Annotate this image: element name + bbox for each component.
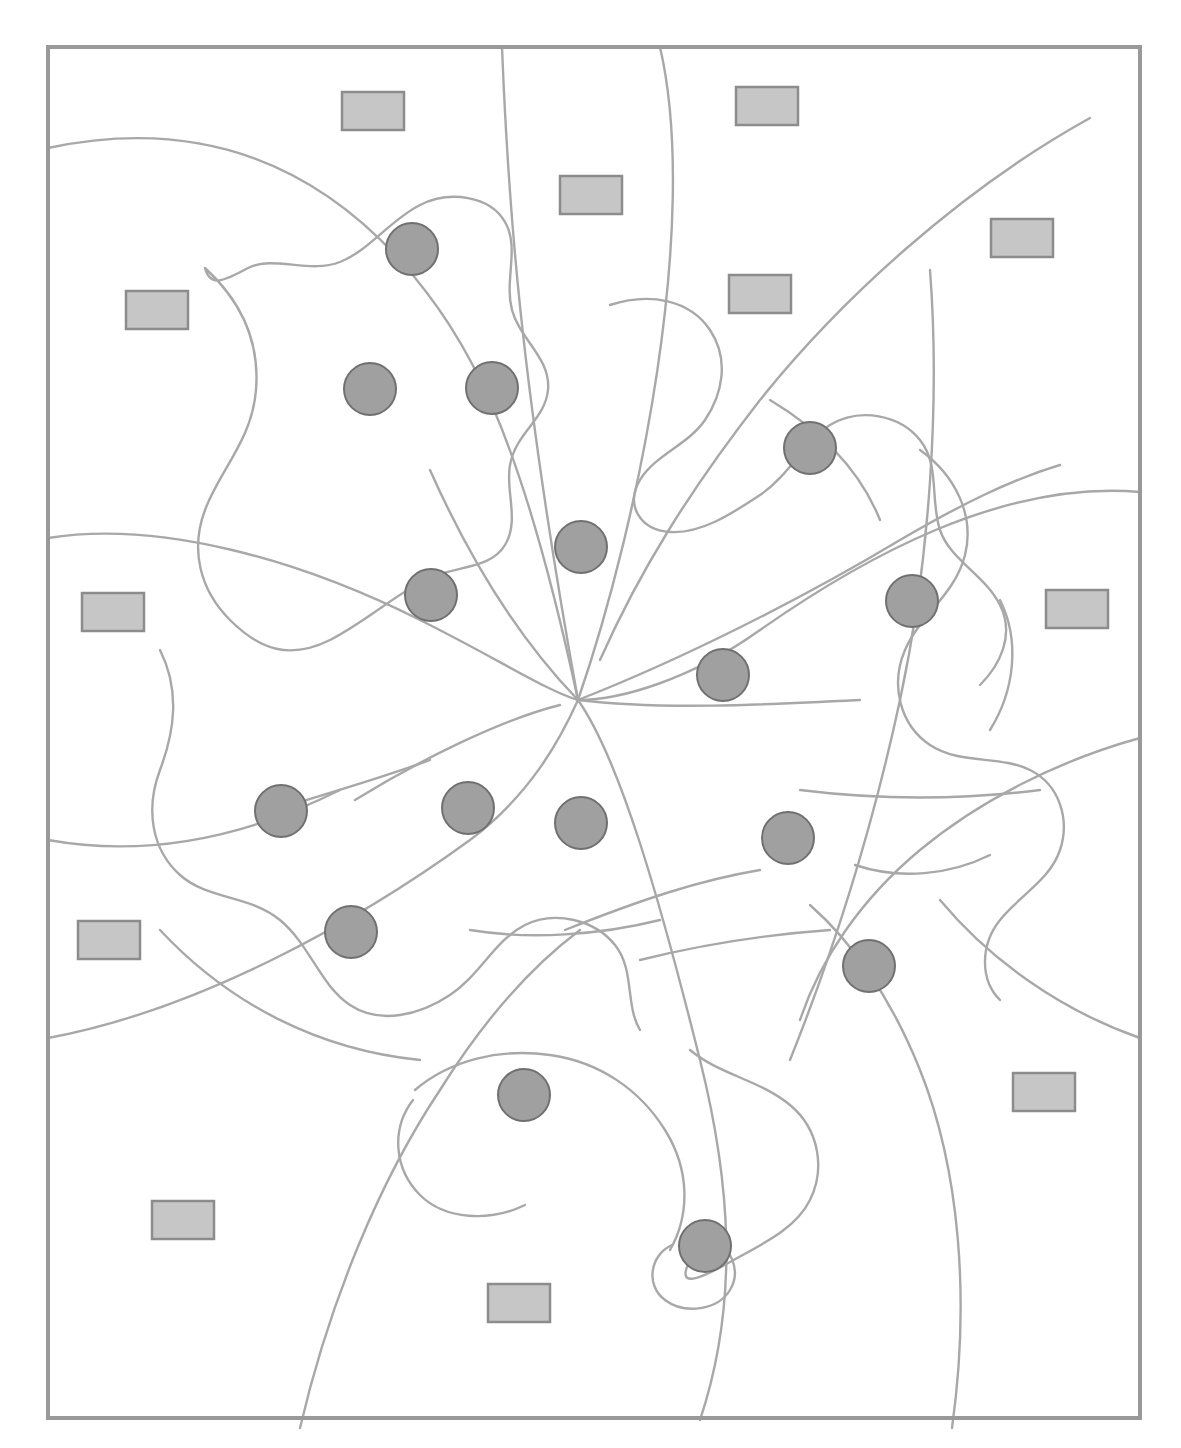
- contour-line: [578, 47, 673, 700]
- gray-circle-marker: [405, 569, 457, 621]
- gray-rectangle-marker: [78, 921, 140, 959]
- gray-rectangle-marker: [991, 219, 1053, 257]
- contour-line: [578, 465, 1060, 700]
- shape-counting-figure: [0, 0, 1181, 1448]
- gray-circle-marker: [466, 362, 518, 414]
- gray-circles-layer: [255, 223, 938, 1272]
- gray-rectangle-marker: [82, 593, 144, 631]
- gray-circle-marker: [886, 575, 938, 627]
- gray-circle-marker: [255, 785, 307, 837]
- contour-line: [470, 920, 660, 935]
- gray-circle-marker: [762, 812, 814, 864]
- figure-canvas: [0, 0, 1181, 1448]
- contour-line: [640, 930, 830, 960]
- gray-circle-marker: [555, 797, 607, 849]
- contour-line: [940, 900, 1140, 1038]
- contour-line: [990, 600, 1012, 730]
- gray-rectangle-marker: [1013, 1073, 1075, 1111]
- contour-line: [198, 197, 548, 650]
- contour-line: [610, 299, 1006, 685]
- gray-circle-marker: [442, 782, 494, 834]
- gray-circle-marker: [679, 1220, 731, 1272]
- gray-circle-marker: [555, 521, 607, 573]
- gray-circle-marker: [325, 906, 377, 958]
- gray-rectangle-marker: [342, 92, 404, 130]
- gray-circle-marker: [386, 223, 438, 275]
- gray-rectangle-marker: [560, 176, 622, 214]
- gray-rectangle-marker: [488, 1284, 550, 1322]
- gray-rectangle-marker: [736, 87, 798, 125]
- gray-circle-marker: [697, 649, 749, 701]
- gray-rectangle-marker: [1046, 590, 1108, 628]
- gray-rectangle-marker: [152, 1201, 214, 1239]
- contour-line: [898, 450, 1064, 1000]
- contour-line: [300, 930, 580, 1428]
- gray-circle-marker: [784, 422, 836, 474]
- gray-rectangle-marker: [729, 275, 791, 313]
- contour-line: [855, 855, 990, 874]
- gray-circle-marker: [344, 363, 396, 415]
- contour-line: [398, 1100, 525, 1216]
- gray-rectangles-layer: [78, 87, 1108, 1322]
- contour-line: [48, 700, 578, 1038]
- contour-line: [415, 1053, 684, 1250]
- gray-circle-marker: [498, 1069, 550, 1121]
- gray-circle-marker: [843, 940, 895, 992]
- gray-rectangle-marker: [126, 291, 188, 329]
